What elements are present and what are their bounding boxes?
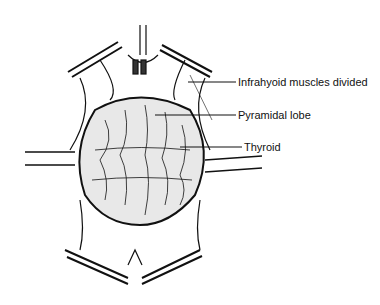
label-thyroid: Thyroid <box>244 141 281 153</box>
upper-retractor-icon <box>128 25 158 74</box>
label-pyramidal-lobe: Pyramidal lobe <box>238 109 311 121</box>
thyroid-illustration <box>0 0 380 305</box>
label-infrahyoid-muscles: Infrahyoid muscles divided <box>238 76 368 88</box>
